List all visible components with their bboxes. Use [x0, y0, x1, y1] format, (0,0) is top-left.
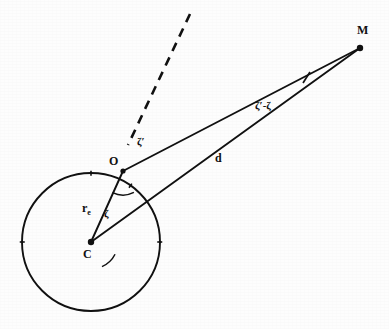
radius-label-subscript: e — [87, 208, 91, 217]
earth-radius-label: re — [82, 202, 91, 217]
zenith-distance-angle-label: ζ — [104, 208, 109, 219]
point-dot-o — [120, 168, 125, 173]
segment-cm — [91, 48, 360, 242]
geometry-diagram — [0, 0, 389, 329]
distance-label: d — [215, 152, 222, 164]
angle-arc-zeta-at-C — [102, 254, 115, 266]
zenith-direction-dashed — [128, 14, 190, 145]
segment-om — [123, 48, 360, 171]
figure-page: M O C re d ζ ζ′ ζ′-ζ — [0, 0, 389, 329]
parallax-angle-label: ζ′-ζ — [255, 100, 271, 111]
point-dot-c — [88, 239, 94, 245]
point-label-c: C — [83, 248, 92, 260]
point-dot-m — [357, 45, 363, 51]
topocentric-zenith-angle-label: ζ′ — [137, 136, 145, 147]
point-label-o: O — [109, 155, 118, 167]
angle-arc-zeta-prime-at-O — [112, 192, 133, 195]
point-label-m: M — [357, 24, 368, 36]
